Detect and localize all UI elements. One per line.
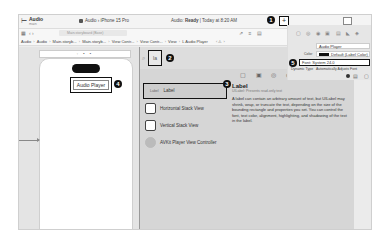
inspector-tabs[interactable]: ▢ ◎ ◉ ▣ ▤ ◣ ◈ [296, 30, 361, 36]
play-icon [145, 137, 156, 148]
scene-dock[interactable]: ◦ ▪ ▪ [39, 50, 131, 58]
text-field[interactable]: Audio Player [316, 43, 370, 49]
back-forward-buttons[interactable]: ‹ › [29, 30, 34, 36]
callout-badge-1: 1 [267, 16, 275, 24]
callout-badge-2: 2 [166, 54, 174, 62]
activity-status: Audio: Ready | Today at 8:20 AM [171, 18, 237, 23]
item-label: Vertical Stack View [160, 123, 198, 128]
font-field[interactable]: Font: System 24.0 [299, 59, 370, 66]
library-filter-input[interactable]: la [148, 50, 162, 66]
detail-description: A label can contain an arbitrary amount … [232, 96, 350, 124]
breadcrumb-item[interactable]: Main.storyb... [82, 39, 106, 44]
status-time: | Today at 8:20 AM [199, 18, 237, 23]
gear-icon[interactable] [346, 74, 350, 78]
breadcrumb-item[interactable]: Audio [21, 39, 31, 44]
breadcrumb-item[interactable]: L Audio Player [182, 39, 208, 44]
inspector-footer-icons[interactable]: ▤ ▢ [346, 73, 371, 79]
editor-options-icons[interactable]: ⇗ ≡ ▤ [239, 30, 264, 36]
editor-nav-bar: ▦ ‹ › Main.storyboard (Base) ⇗ ≡ ▤ [19, 29, 287, 38]
color-swatch [319, 53, 329, 56]
breadcrumb-item[interactable]: View [168, 39, 177, 44]
audio-player-label[interactable]: Audio Player [70, 77, 112, 93]
filter-icon: ⌕ [142, 55, 145, 62]
scheme-name: Audio [85, 18, 97, 23]
library-item-label[interactable]: LabelLabel 3 [143, 83, 227, 99]
project-branch: main [29, 22, 37, 26]
library-list: LabelLabel 3 Horizontal Stack View Verti… [140, 83, 228, 153]
dynamic-type-checkbox[interactable]: Automatically Adjusts Font [316, 67, 357, 71]
attributes-inspector: ▢ ◎ ◉ ▣ ▤ ◣ ◈ Audio Player Color Default… [287, 25, 372, 80]
breadcrumb-item[interactable]: Main.storyb... [53, 39, 77, 44]
item-label: AVKit Player View Controller [160, 140, 217, 145]
app-icon [79, 19, 83, 23]
color-popup[interactable]: Default (Label Color) [316, 51, 370, 57]
library-item-vertical-stack[interactable]: Vertical Stack View [140, 119, 228, 133]
horizontal-stack-icon [145, 103, 156, 114]
dynamic-type-label: Dynamic Type [291, 67, 313, 71]
issue-navigator[interactable]: ‹ ⚠ › [216, 39, 225, 44]
dynamic-island [72, 64, 100, 73]
storyboard-canvas[interactable]: ◦ ▪ ▪ Audio Player 4 [19, 47, 139, 229]
color-label: Color [304, 52, 312, 56]
callout-badge-3: 3 [223, 80, 231, 88]
library-item-avkit-player[interactable]: AVKit Player View Controller [140, 136, 228, 150]
item-label: Horizontal Stack View [160, 106, 204, 111]
callout-badge-5: 5 [289, 59, 297, 67]
callout-badge-4: 4 [114, 80, 122, 88]
label-tag-icon: Label [150, 89, 159, 93]
entry-point-arrow[interactable] [19, 140, 39, 141]
breadcrumb: Audio › Audio › Main.storyb... › Main.st… [19, 38, 287, 46]
file-tab[interactable]: Main.storyboard (Base) [59, 30, 127, 36]
color-value: Default (Label Color) [331, 52, 368, 57]
status-prefix: Audio: [171, 18, 185, 23]
breadcrumb-item[interactable]: Audio [37, 39, 47, 44]
iphone-scene[interactable]: Audio Player 4 [39, 58, 133, 230]
destination-name: iPhone 15 Pro [101, 18, 130, 23]
status-state: Ready [185, 18, 199, 23]
detail-subtitle: UILabel: Presents read-only text [232, 89, 350, 93]
breadcrumb-item[interactable]: View Contr... [112, 39, 135, 44]
library-detail: Label UILabel: Presents read-only text A… [232, 83, 350, 124]
grid-icon[interactable]: ▦ [21, 30, 26, 36]
xcode-window: ⊢ Audio main Audio › iPhone 15 Pro Audio… [18, 14, 372, 230]
item-label: Label [164, 88, 175, 93]
sidebar-toggle-icon[interactable]: ⊢ [21, 17, 27, 25]
label-text: Audio Player [73, 80, 109, 90]
library-item-horizontal-stack[interactable]: Horizontal Stack View [140, 102, 228, 116]
breadcrumb-item[interactable]: View Contr... [140, 39, 163, 44]
vertical-stack-icon [145, 120, 156, 131]
scheme-selector[interactable]: Audio › iPhone 15 Pro [79, 18, 129, 23]
inspector-toggle-icon[interactable] [343, 17, 352, 25]
